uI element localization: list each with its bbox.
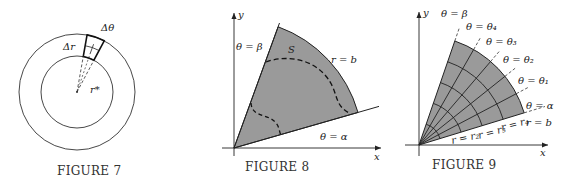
label-theta-2: θ = θ₂ <box>503 54 534 65</box>
figure-9: y x θ = β θ = θ₄ θ = θ₃ θ = θ₂ θ = θ₁ θ … <box>405 7 554 172</box>
label-x-axis: x <box>374 151 380 162</box>
label-theta-beta: θ = β <box>441 8 468 19</box>
figure-7: Δθ Δr r* FIGURE 7 <box>19 22 135 178</box>
dashed-radius-mid <box>77 54 90 92</box>
label-delta-theta: Δθ <box>100 22 114 33</box>
label-theta-3: θ = θ₃ <box>486 36 517 47</box>
label-y-axis: y <box>237 9 244 20</box>
label-delta-r: Δr <box>62 41 76 52</box>
mid-radius <box>90 44 94 54</box>
label-y-axis: y <box>422 7 429 18</box>
label-theta-beta: θ = β <box>236 41 263 52</box>
caption-figure-8: FIGURE 8 <box>245 160 309 174</box>
label-theta-alpha: θ = α <box>320 131 348 142</box>
center-point <box>76 91 78 93</box>
label-r-star: r* <box>90 84 100 95</box>
label-r-b: r = b <box>331 54 357 65</box>
label-theta-alpha: θ = α <box>526 100 554 111</box>
caption-figure-9: FIGURE 9 <box>432 158 496 172</box>
polar-rectangle <box>83 35 104 60</box>
caption-figure-7: FIGURE 7 <box>57 164 121 178</box>
label-theta-4: θ = θ₄ <box>466 21 497 32</box>
label-r-b: r = b <box>526 117 552 128</box>
figure-8: y x θ = β S r = b θ = α FIGURE 8 <box>222 9 381 174</box>
label-x-axis: x <box>540 147 546 158</box>
figures-canvas: Δθ Δr r* FIGURE 7 y x θ = β S r = b θ = … <box>0 0 564 182</box>
label-theta-1: θ = θ₁ <box>518 75 549 86</box>
label-S: S <box>288 44 295 55</box>
